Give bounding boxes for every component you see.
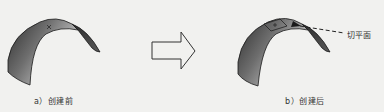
caption-before: a）创建前 — [34, 95, 73, 106]
surface-after — [238, 18, 344, 86]
surface-before — [8, 19, 100, 85]
callout-tangent-plane: 切平面 — [347, 29, 371, 40]
right-arrow-icon — [152, 32, 195, 69]
caption-after: b）创建后 — [285, 95, 325, 106]
